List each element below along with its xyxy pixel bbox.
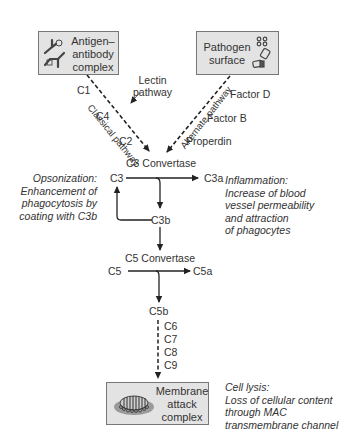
c3-to-c3b-arrow — [156, 178, 160, 208]
mac-line2: attack — [155, 398, 209, 411]
membrane-attack-complex-box: Membrane attack complex — [106, 382, 209, 425]
opsonization-line2: phagocytosis by — [4, 197, 97, 210]
c3-label: C3 — [110, 172, 123, 184]
alternate-component-factor-d: Factor D — [230, 88, 270, 100]
c3b-feedback-arrow — [117, 187, 152, 220]
mac-line3: complex — [155, 411, 209, 424]
cell-lysis-line1: Loss of cellular content — [225, 394, 342, 407]
antibody-icon — [42, 37, 68, 69]
membrane-pore-icon — [112, 392, 156, 416]
cell-lysis-effect: Cell lysis: Loss of cellular content thr… — [225, 381, 342, 431]
c5b-label: C5b — [149, 305, 168, 317]
inflammation-effect: Inflammation: Increase of blood vessel p… — [225, 174, 340, 237]
lectin-line1: Lectin — [133, 74, 172, 86]
late-component-c7: C7 — [164, 333, 177, 345]
antigen-label: Antigen– — [67, 35, 119, 48]
antigen-antibody-complex-box: Antigen– antibody complex — [38, 31, 119, 75]
late-component-c8: C8 — [164, 346, 177, 358]
inflammation-line1: Increase of blood — [225, 187, 340, 200]
surface-label: surface — [201, 54, 253, 67]
opsonization-title: Opsonization: — [4, 172, 97, 185]
c5a-label: C5a — [193, 265, 212, 277]
cell-lysis-line2: through MAC — [225, 406, 342, 419]
opsonization-line1: Enhancement of — [4, 185, 97, 198]
c5-label: C5 — [108, 265, 121, 277]
inflammation-line3: and attraction — [225, 212, 340, 225]
alternate-component-properdin: Properdin — [186, 135, 232, 147]
c5-to-c5b-arrow — [156, 271, 159, 302]
inflammation-title: Inflammation: — [225, 174, 340, 187]
mac-line1: Membrane — [155, 385, 209, 398]
lectin-line2: pathway — [133, 86, 172, 98]
pathogen-icon — [249, 35, 277, 73]
lectin-pathway-label: Lectin pathway — [133, 74, 172, 98]
cell-lysis-line3: transmembrane channel — [225, 419, 342, 432]
c3-convertase-label: C3 Convertase — [126, 157, 196, 169]
classical-component-c1: C1 — [77, 84, 90, 96]
opsonization-line3: coating with C3b — [4, 210, 97, 223]
pathogen-surface-box: Pathogen surface — [196, 31, 279, 75]
c5-convertase-label: C5 Convertase — [125, 252, 195, 264]
inflammation-line2: vessel permeability — [225, 199, 340, 212]
complex-label: complex — [67, 61, 119, 74]
late-component-c6: C6 — [164, 320, 177, 332]
pathogen-label: Pathogen — [201, 41, 253, 54]
alternate-component-factor-b: Factor B — [207, 112, 247, 124]
opsonization-effect: Opsonization: Enhancement of phagocytosi… — [4, 172, 97, 222]
inflammation-line4: of phagocytes — [225, 224, 340, 237]
antibody-label: antibody — [67, 48, 119, 61]
c3a-label: C3a — [204, 172, 223, 184]
late-component-c9: C9 — [164, 359, 177, 371]
cell-lysis-title: Cell lysis: — [225, 381, 342, 394]
c3b-label: C3b — [151, 214, 170, 226]
